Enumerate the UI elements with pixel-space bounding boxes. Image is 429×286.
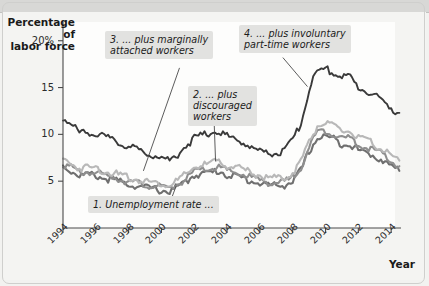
annotation-involuntary-part-time-workers: 4. ... plus involuntary part-time worker… (239, 25, 351, 53)
annotation-unemployment-rate: 1. Unemployment rate ... (88, 196, 219, 213)
y-tick-label: 5 (14, 175, 54, 186)
x-axis-title: Year (389, 258, 415, 270)
annotation-discouraged-workers: 2. ... plus discouraged workers (188, 86, 257, 126)
y-tick-label: 15 (14, 82, 54, 93)
y-tick-label: 10 (14, 128, 54, 139)
annotation-marginally-attached-workers: 3. ... plus marginally attached workers (105, 31, 213, 59)
chart-figure: Percentage of labor force 5101520% 19941… (0, 0, 429, 286)
annotation-leader-line (283, 58, 308, 87)
series-line (63, 134, 399, 194)
y-tick-label: 20% (14, 35, 54, 46)
